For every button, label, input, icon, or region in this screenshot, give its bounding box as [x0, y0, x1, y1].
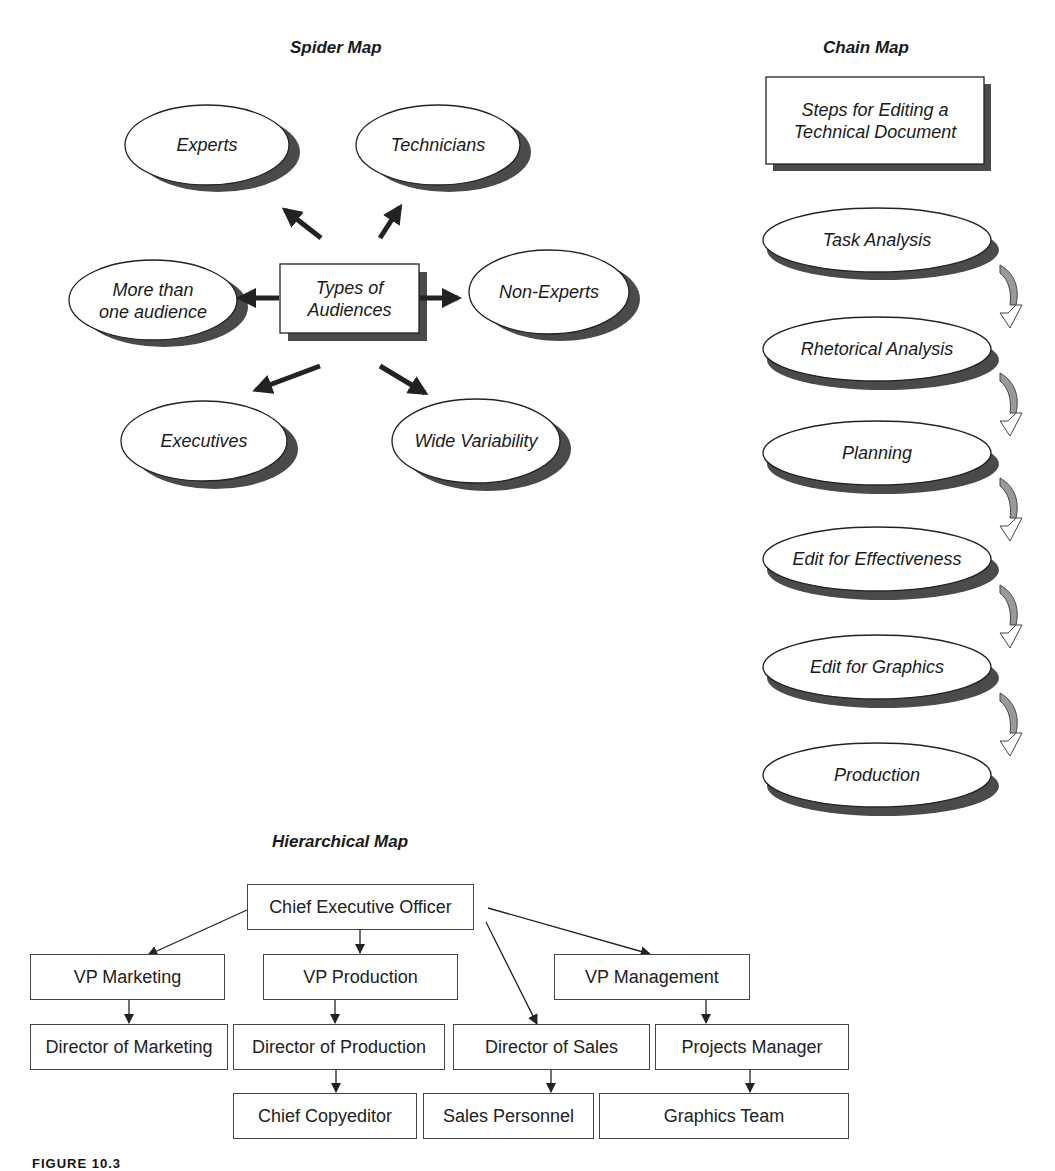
- center-label-line: Types of: [316, 277, 384, 299]
- chain-step-task-analysis: Task Analysis: [763, 220, 991, 260]
- chain-step-planning: Planning: [763, 433, 991, 473]
- spider-node-more-than-one: More than one audience: [69, 278, 237, 324]
- step-label: Production: [834, 764, 920, 786]
- org-sales-personnel: Sales Personnel: [423, 1093, 594, 1139]
- org-vp-production: VP Production: [263, 954, 458, 1000]
- spider-node-non-experts: Non-Experts: [469, 272, 629, 312]
- chain-step-rhetorical-analysis: Rhetorical Analysis: [763, 329, 991, 369]
- node-label: Technicians: [391, 134, 485, 156]
- spider-node-experts: Experts: [125, 125, 289, 165]
- org-director-sales: Director of Sales: [453, 1024, 650, 1070]
- org-director-marketing: Director of Marketing: [30, 1024, 228, 1070]
- chain-ovals: [763, 208, 999, 816]
- node-label: Executives: [160, 430, 247, 452]
- org-graphics-team: Graphics Team: [599, 1093, 849, 1139]
- figure-label: FIGURE 10.3: [32, 1156, 121, 1171]
- node-label-line: More than: [112, 279, 193, 301]
- spider-center-types-of-audiences: Types of Audiences: [280, 264, 419, 333]
- chain-header-line: Steps for Editing a: [801, 99, 948, 121]
- chain-step-edit-graphics: Edit for Graphics: [763, 647, 991, 687]
- center-label-line: Audiences: [307, 299, 391, 321]
- step-label: Edit for Effectiveness: [792, 548, 961, 570]
- org-vp-management: VP Management: [554, 954, 750, 1000]
- spider-node-technicians: Technicians: [356, 125, 520, 165]
- node-label: Non-Experts: [499, 281, 599, 303]
- chain-step-production: Production: [763, 755, 991, 795]
- step-label: Rhetorical Analysis: [801, 338, 953, 360]
- chain-curved-arrows: [1000, 265, 1022, 756]
- org-chief-copyeditor: Chief Copyeditor: [233, 1093, 417, 1139]
- spider-node-wide-variability: Wide Variability: [392, 421, 560, 461]
- org-projects-manager: Projects Manager: [655, 1024, 849, 1070]
- chain-header: Steps for Editing a Technical Document: [766, 77, 984, 164]
- node-label: Wide Variability: [414, 430, 537, 452]
- step-label: Task Analysis: [823, 229, 932, 251]
- spider-node-executives: Executives: [121, 421, 287, 461]
- org-director-production: Director of Production: [233, 1024, 445, 1070]
- node-label: Experts: [176, 134, 237, 156]
- chain-step-edit-effectiveness: Edit for Effectiveness: [763, 539, 991, 579]
- org-chief-executive-officer: Chief Executive Officer: [247, 884, 474, 930]
- node-label-line: one audience: [99, 301, 207, 323]
- chain-header-line: Technical Document: [794, 121, 956, 143]
- step-label: Edit for Graphics: [810, 656, 944, 678]
- org-vp-marketing: VP Marketing: [30, 954, 225, 1000]
- step-label: Planning: [842, 442, 912, 464]
